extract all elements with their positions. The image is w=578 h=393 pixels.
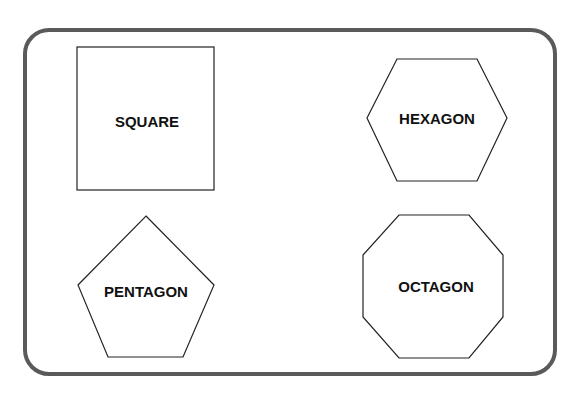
- shapes-diagram: SQUARE HEXAGON PENTAGON OCTAGON: [0, 0, 578, 393]
- octagon-label: OCTAGON: [398, 278, 474, 295]
- square-label: SQUARE: [115, 113, 179, 130]
- octagon-shape: OCTAGON: [363, 215, 503, 358]
- pentagon-label: PENTAGON: [104, 283, 188, 300]
- hexagon-shape: HEXAGON: [367, 59, 507, 181]
- pentagon-shape: PENTAGON: [78, 216, 214, 357]
- square-shape: SQUARE: [77, 47, 214, 190]
- hexagon-label: HEXAGON: [399, 110, 475, 127]
